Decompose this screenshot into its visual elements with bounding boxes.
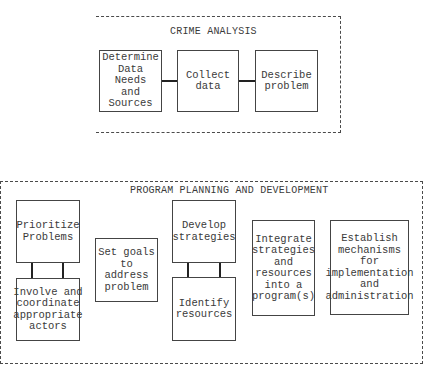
step-involve-actors: Involve and coordinate appropriate actor… bbox=[16, 278, 80, 341]
group-border-left bbox=[0, 181, 1, 364]
step-prioritize-problems: Prioritize Problems bbox=[16, 200, 80, 263]
crime-analysis-title: CRIME ANALYSIS bbox=[170, 26, 257, 37]
connector bbox=[239, 80, 255, 82]
step-collect-data: Collect data bbox=[177, 50, 239, 112]
step-set-goals: Set goals to address problem bbox=[95, 238, 158, 302]
group-border-bottom bbox=[0, 363, 423, 364]
group-border-bottom bbox=[96, 132, 341, 133]
connector bbox=[187, 263, 189, 278]
step-identify-resources: Identify resources bbox=[172, 277, 236, 341]
group-border-right bbox=[340, 16, 341, 133]
step-establish-mechanisms: Establish mechanisms for implementation … bbox=[330, 220, 409, 315]
connector bbox=[31, 263, 33, 278]
group-border-right bbox=[422, 181, 423, 364]
step-describe-problem: Describe problem bbox=[255, 50, 318, 112]
connector bbox=[219, 263, 221, 278]
step-develop-strategies: Develop strategies bbox=[172, 200, 236, 263]
group-border-top bbox=[96, 16, 341, 17]
step-determine-data-needs: Determine Data Needs and Sources bbox=[99, 50, 162, 112]
step-integrate-strategies: Integrate strategies and resources into … bbox=[252, 220, 315, 316]
connector bbox=[162, 80, 177, 82]
group-border-top bbox=[0, 181, 423, 182]
connector bbox=[62, 263, 64, 278]
program-planning-title: PROGRAM PLANNING AND DEVELOPMENT bbox=[130, 185, 328, 196]
